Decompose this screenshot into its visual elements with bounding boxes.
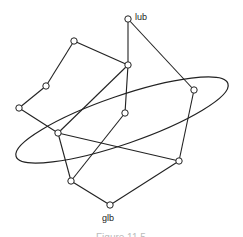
edge-i-glb (71, 181, 110, 205)
subset-ellipse (8, 61, 235, 179)
figure-caption: Figure 11.5 (96, 232, 146, 237)
node-b (125, 62, 131, 68)
node-c (43, 83, 49, 89)
edge-b-f (125, 65, 128, 113)
edge-a-c (46, 41, 74, 86)
node-e (191, 87, 197, 93)
edge-g-i (58, 133, 71, 181)
label-glb: glb (102, 213, 114, 223)
label-lub: lub (135, 12, 147, 22)
edge-a-b (74, 41, 128, 65)
node-f (122, 110, 128, 116)
node-g (55, 130, 61, 136)
edge-h-glb (110, 161, 179, 205)
node-d (16, 105, 22, 111)
edges (19, 19, 194, 205)
edge-e-h (179, 90, 194, 161)
edge-d-g (19, 108, 58, 133)
node-h (176, 158, 182, 164)
nodes (16, 16, 197, 208)
node-glb (107, 202, 113, 208)
node-a (71, 38, 77, 44)
edge-c-d (19, 86, 46, 108)
node-lub (125, 16, 131, 22)
node-i (68, 178, 74, 184)
lattice-diagram: lub glb Figure 11.5 (0, 0, 243, 237)
